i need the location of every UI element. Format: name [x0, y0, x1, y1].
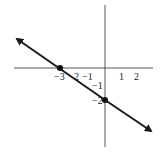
y-tick-label: −2	[92, 95, 103, 106]
x-tick-label: −3	[54, 71, 65, 82]
coordinate-plane: −3 2 −1 1 2 −1 −2	[0, 0, 163, 156]
x-tick-label: 1	[119, 71, 124, 82]
x-tick-label: 2	[134, 71, 139, 82]
x-tick-label: 2	[74, 71, 79, 82]
y-tick-label: −1	[92, 80, 103, 91]
point-y-intercept	[102, 97, 108, 103]
graph: −3 2 −1 1 2 −1 −2	[0, 0, 163, 156]
graph-line	[105, 100, 151, 131]
